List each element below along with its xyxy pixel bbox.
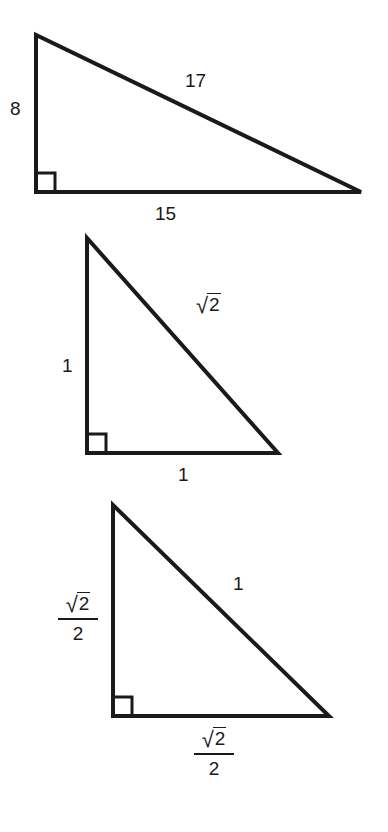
- fraction-numerator: √2: [202, 728, 227, 750]
- sqrt-expression: √2: [196, 294, 221, 316]
- triangle-half-sqrt2-svg: [0, 490, 388, 832]
- radicand-value: 2: [207, 293, 221, 314]
- triangle-1-1-sqrt2-svg: [0, 230, 388, 490]
- label-horizontal-leg-fraction: √2 2: [194, 728, 234, 778]
- label-vertical-leg-fraction: √2 2: [58, 593, 98, 643]
- label-vertical-leg: 8: [10, 99, 21, 118]
- label-vertical-leg: 1: [62, 356, 73, 375]
- triangle-outline: [87, 238, 278, 453]
- radicand-value: 2: [213, 727, 227, 748]
- fraction-bar: [58, 618, 98, 620]
- sqrt-expression: √2: [202, 728, 227, 750]
- triangle-figure-half-sqrt2: √2 2 1 √2 2: [0, 490, 388, 832]
- fraction-denominator: 2: [209, 758, 220, 778]
- fraction-denominator: 2: [73, 623, 84, 643]
- fraction-numerator: √2: [66, 593, 91, 615]
- triangle-outline: [113, 505, 329, 716]
- label-horizontal-leg: 1: [178, 465, 189, 484]
- triangle-figure-8-15-17: 8 17 15: [0, 0, 388, 230]
- triangle-figure-1-1-sqrt2: 1 √2 1: [0, 230, 388, 490]
- figure-canvas: 8 17 15 1 √2 1 √2 2 1: [0, 0, 388, 832]
- label-horizontal-leg: 15: [155, 204, 176, 223]
- sqrt-expression: √2: [66, 593, 91, 615]
- triangle-8-15-17-svg: [0, 0, 388, 230]
- fraction-bar: [194, 753, 234, 755]
- label-hypotenuse: 17: [185, 71, 206, 90]
- label-hypotenuse: √2: [196, 294, 221, 316]
- label-hypotenuse: 1: [233, 574, 244, 593]
- radicand-value: 2: [77, 592, 91, 613]
- triangle-outline: [36, 35, 361, 192]
